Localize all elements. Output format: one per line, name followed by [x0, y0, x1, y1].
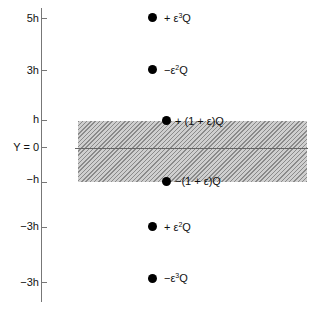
zero-line — [75, 148, 308, 149]
tick-label-h: h — [33, 113, 39, 125]
charge-dot — [162, 116, 171, 125]
charge-dot — [148, 274, 157, 283]
charge-label: −ε3Q — [164, 272, 188, 284]
tick-minus-h — [42, 182, 47, 183]
charge-label: + (1 + ε)Q — [175, 115, 224, 127]
charge-label: + ε3Q — [164, 12, 191, 24]
tick-label-5h: 5h — [27, 12, 39, 24]
tick-label-minus-3h-lower: −3h — [20, 276, 39, 288]
tick-h — [42, 120, 47, 121]
charge-dot — [148, 13, 157, 22]
charge-label: + ε2Q — [164, 221, 191, 233]
charge-dot — [148, 65, 157, 74]
charge-label: −ε2Q — [164, 64, 188, 76]
tick-minus-3h-lower — [42, 282, 47, 283]
tick-5h — [42, 18, 47, 19]
charge-dot — [162, 177, 171, 186]
tick-label-3h: 3h — [27, 64, 39, 76]
tick-label-minus-3h: −3h — [20, 220, 39, 232]
tick-3h — [42, 70, 47, 71]
tick-zero — [42, 147, 47, 148]
y-axis — [41, 8, 42, 302]
tick-minus-3h — [42, 227, 47, 228]
tick-label-minus-h: −h — [26, 173, 39, 185]
tick-label-zero: Y = 0 — [13, 141, 39, 153]
charge-dot — [148, 222, 157, 231]
hatched-slab — [78, 121, 307, 182]
charge-label: −(1 + ε)Q — [175, 175, 221, 187]
